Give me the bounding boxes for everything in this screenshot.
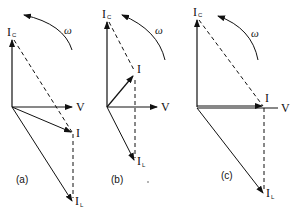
omega-label: ω <box>251 27 259 39</box>
phasor-diagrams-svg: ω I C V I I L (a) ω I C V I I L (b) ω <box>0 0 294 217</box>
i-phasor <box>107 76 133 107</box>
v-label: V <box>161 100 170 114</box>
il-label-sub: L <box>80 202 84 208</box>
il-phasor <box>12 107 72 201</box>
ic-label: I <box>7 25 11 39</box>
ic-label-sub: C <box>198 12 203 18</box>
omega-label: ω <box>64 24 72 36</box>
omega-label: ω <box>155 24 163 36</box>
caption-a: (a) <box>16 174 28 185</box>
il-label-sub: L <box>142 162 146 168</box>
dashed-ic-to-i <box>109 22 134 70</box>
il-label: I <box>137 154 141 168</box>
ic-label-sub: C <box>12 32 17 38</box>
panel-a: ω I C V I I L (a) <box>7 15 85 208</box>
v-label: V <box>281 101 290 115</box>
i-label: I <box>76 126 80 140</box>
phasor-diagram-figure: ω I C V I I L (a) ω I C V I I L (b) ω <box>0 0 294 217</box>
ic-label: I <box>193 5 197 19</box>
ic-label-sub: C <box>107 14 112 20</box>
caption-c: (c) <box>221 170 233 181</box>
stray-dot <box>147 181 148 182</box>
il-phasor <box>107 107 134 160</box>
il-label: I <box>266 186 270 200</box>
panel-b: ω I C V I I L (b) <box>102 7 170 185</box>
i-phasor <box>12 107 71 132</box>
v-label: V <box>76 100 85 114</box>
ic-label: I <box>102 7 106 21</box>
i-label: I <box>137 62 141 76</box>
panel-c: ω I C V I I L (c) <box>193 5 290 200</box>
i-label: I <box>265 91 269 105</box>
omega-rotation-arrow-icon <box>122 15 165 60</box>
caption-b: (b) <box>111 174 123 185</box>
dashed-ic-to-i <box>14 40 72 132</box>
il-label-sub: L <box>271 194 275 200</box>
il-label: I <box>75 194 79 208</box>
